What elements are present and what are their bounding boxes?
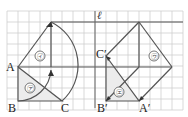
label-line-l: ℓ <box>97 9 102 21</box>
transformation-diagram: ㋐㋑㋒㋓ A B C C′ B′ A′ ℓ <box>0 0 188 117</box>
triangle-a-label: ㋐ <box>27 85 34 93</box>
label-c: C <box>61 101 69 115</box>
triangle-e-label: ㋓ <box>116 89 123 97</box>
label-a: A <box>6 60 15 74</box>
label-a-prime: A′ <box>139 101 151 115</box>
triangle-u-label: ㋒ <box>151 53 158 61</box>
label-b-prime: B′ <box>97 101 108 115</box>
triangle-i-label: ㋑ <box>37 53 44 61</box>
label-c-prime: C′ <box>96 47 107 61</box>
label-b: B <box>8 101 16 115</box>
rotation-arc-outer <box>51 22 78 101</box>
